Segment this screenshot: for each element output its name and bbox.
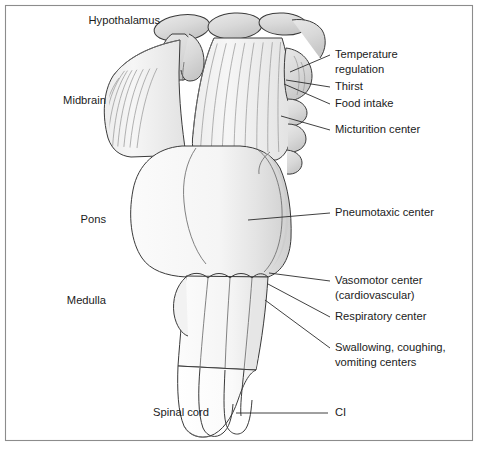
lobe-temperature [284, 48, 312, 101]
svg-text:Swallowing, coughing,: Swallowing, coughing, [335, 341, 446, 353]
svg-text:regulation: regulation [335, 63, 384, 75]
pons-body [131, 146, 291, 277]
label-c1: CI [335, 406, 346, 418]
peduncle-left-body [104, 40, 186, 157]
pons-outline [131, 146, 291, 277]
labels-right-group: Temperature regulation Thirst Food intak… [335, 48, 446, 418]
leader-vasomotor-center [269, 273, 330, 281]
spinal-cord-body [178, 366, 256, 437]
optic-chiasm-lobe [207, 12, 262, 41]
cerebral-peduncle-right [192, 37, 292, 160]
anatomy-group [101, 11, 325, 437]
label-pons: Pons [81, 213, 107, 225]
lobe-thirst [288, 99, 307, 126]
leader-respiratory-center [268, 284, 330, 317]
label-pneumotaxic-center: Pneumotaxic center [335, 206, 434, 218]
label-midbrain: Midbrain [63, 94, 106, 106]
label-micturition-center: Micturition center [335, 123, 420, 135]
svg-text:vomiting centers: vomiting centers [335, 356, 417, 368]
svg-text:Vasomotor center: Vasomotor center [335, 274, 423, 286]
svg-text:(cardiovascular): (cardiovascular) [335, 289, 415, 301]
lobe-micturition [287, 150, 302, 174]
brainstem-figure: Hypothalamus Midbrain Pons Medulla Spina… [0, 0, 488, 456]
label-thirst: Thirst [335, 80, 364, 92]
lobe-food-intake [288, 124, 306, 152]
label-swallowing-coughing-vomiting-centers: Swallowing, coughing, vomiting centers [335, 341, 446, 368]
spinal-cord-outline [178, 366, 256, 437]
label-spinal-cord: Spinal cord [153, 406, 209, 418]
cerebral-peduncle-left [101, 40, 186, 158]
leader-swallowing-coughing-vomiting [265, 300, 330, 348]
svg-text:Temperature: Temperature [335, 48, 398, 60]
label-food-intake: Food intake [335, 97, 393, 109]
label-respiratory-center: Respiratory center [335, 310, 427, 322]
label-temperature-regulation: Temperature regulation [335, 48, 398, 75]
brainstem-diagram: Hypothalamus Midbrain Pons Medulla Spina… [0, 0, 488, 456]
label-vasomotor-center: Vasomotor center (cardiovascular) [335, 274, 423, 301]
label-medulla: Medulla [67, 294, 107, 306]
medulla-body [174, 273, 269, 370]
label-hypothalamus: Hypothalamus [88, 14, 160, 26]
olive-left [174, 277, 189, 336]
